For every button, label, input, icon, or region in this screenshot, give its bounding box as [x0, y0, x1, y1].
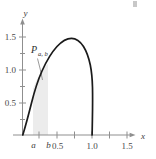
- region-label-pab: P: [30, 44, 37, 55]
- y-tick-label-1-5: 1.5: [5, 32, 17, 42]
- x-label-b: b: [46, 140, 51, 150]
- y-tick-label-1-0: 1.0: [5, 65, 17, 75]
- plot-canvas: 1.5 1.0 0.5 0.5 1.0 1.5 a b y x P a, b: [0, 0, 156, 159]
- x-label-a: a: [31, 140, 36, 150]
- x-tick-label-1-0: 1.0: [86, 141, 98, 151]
- y-tick-label-0-5: 0.5: [5, 98, 17, 108]
- y-axis-arrowhead: [20, 19, 25, 25]
- region-label-pab-subscript: a, b: [38, 50, 49, 57]
- figure-container: 1.5 1.0 0.5 0.5 1.0 1.5 a b y x P a, b: [0, 0, 156, 159]
- x-tick-label-0-5: 0.5: [52, 141, 64, 151]
- x-axis-arrowhead: [130, 133, 136, 137]
- y-axis-label: y: [23, 8, 28, 18]
- x-tick-label-1-5: 1.5: [121, 141, 133, 151]
- x-axis-label: x: [140, 131, 145, 141]
